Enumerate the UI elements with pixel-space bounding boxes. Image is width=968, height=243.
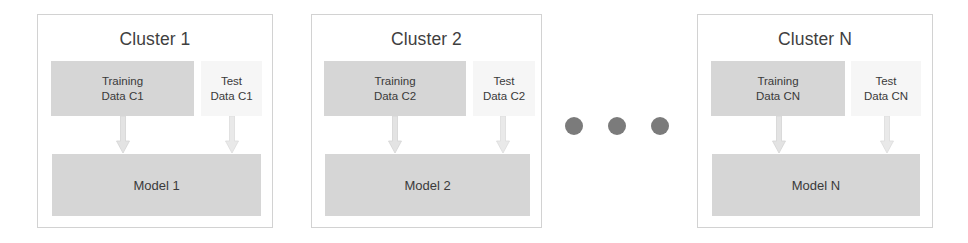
training-data-label-line2: Data C1 bbox=[101, 89, 143, 104]
model-box-n: Model N bbox=[712, 154, 920, 216]
test-data-label-line2: Data C2 bbox=[483, 89, 525, 104]
cluster-pipeline-diagram: Cluster 1 Training Data C1 Test Data C1 … bbox=[0, 0, 968, 243]
cluster-panel-1: Cluster 1 Training Data C1 Test Data C1 … bbox=[37, 14, 273, 228]
test-data-box-2: Test Data C2 bbox=[473, 61, 535, 116]
test-data-label-line1: Test bbox=[493, 74, 514, 89]
test-data-box-n: Test Data CN bbox=[851, 61, 921, 116]
training-data-box-2: Training Data C2 bbox=[324, 61, 466, 116]
ellipsis-dot bbox=[608, 117, 626, 135]
test-data-label-line1: Test bbox=[221, 74, 242, 89]
training-data-label-line1: Training bbox=[757, 74, 798, 89]
training-data-label-line2: Data CN bbox=[756, 89, 800, 104]
cluster-title-n: Cluster N bbox=[698, 30, 932, 49]
training-data-label-line1: Training bbox=[102, 74, 143, 89]
down-arrow-icon-training-n bbox=[772, 116, 786, 154]
down-arrow-icon-test-1 bbox=[225, 116, 239, 154]
cluster-panel-2: Cluster 2 Training Data C2 Test Data C2 … bbox=[311, 14, 542, 228]
down-arrow-icon-training-2 bbox=[388, 116, 402, 154]
training-data-label-line1: Training bbox=[374, 74, 415, 89]
ellipsis-dots bbox=[565, 116, 669, 136]
model-label: Model 2 bbox=[404, 178, 450, 193]
down-arrow-icon-test-n bbox=[880, 116, 894, 154]
cluster-panel-n: Cluster N Training Data CN Test Data CN … bbox=[697, 14, 933, 228]
training-data-box-n: Training Data CN bbox=[711, 61, 845, 116]
ellipsis-dot bbox=[651, 117, 669, 135]
cluster-title-1: Cluster 1 bbox=[38, 30, 272, 49]
model-label: Model 1 bbox=[133, 178, 179, 193]
training-data-label-line2: Data C2 bbox=[374, 89, 416, 104]
model-label: Model N bbox=[792, 178, 840, 193]
training-data-box-1: Training Data C1 bbox=[51, 61, 194, 116]
test-data-label-line1: Test bbox=[875, 74, 896, 89]
model-box-1: Model 1 bbox=[52, 154, 261, 216]
test-data-label-line2: Data CN bbox=[864, 89, 908, 104]
ellipsis-dot bbox=[565, 117, 583, 135]
test-data-label-line2: Data C1 bbox=[210, 89, 252, 104]
cluster-title-2: Cluster 2 bbox=[312, 30, 541, 49]
model-box-2: Model 2 bbox=[325, 154, 530, 216]
test-data-box-1: Test Data C1 bbox=[201, 61, 262, 116]
down-arrow-icon-training-1 bbox=[116, 116, 130, 154]
down-arrow-icon-test-2 bbox=[496, 116, 510, 154]
